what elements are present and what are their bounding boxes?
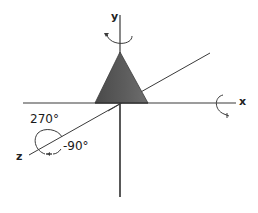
negative-angle-label: -90°: [63, 140, 89, 152]
rotation-diagram: y x z 270° -90°: [0, 0, 258, 213]
x-rotation-arrow-icon: [216, 95, 229, 118]
positive-angle-label: 270°: [30, 113, 59, 125]
y-axis-label: y: [111, 11, 118, 22]
cone-icon: [95, 52, 148, 103]
x-axis-label: x: [239, 96, 246, 107]
y-rotation-arrow-icon: [104, 33, 132, 43]
z-axis-label: z: [16, 151, 22, 162]
z-rotation-arrow-icon: [35, 130, 62, 156]
